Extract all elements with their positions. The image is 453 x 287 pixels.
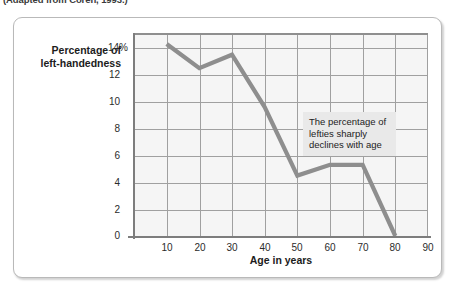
x-tick-50: 50: [282, 242, 312, 253]
x-tick-20: 20: [185, 242, 215, 253]
x-axis-line: [128, 236, 431, 238]
y-tick-4: 4: [80, 177, 120, 188]
y-tick-0: 0: [80, 230, 120, 241]
y-tick-10: 10: [80, 96, 120, 107]
y-tick-6: 6: [80, 150, 120, 161]
x-tick-30: 30: [217, 242, 247, 253]
y-tick-14: 14%: [88, 42, 128, 53]
y-tick-12: 12: [80, 69, 120, 80]
y-axis-title-line2: left-handedness: [18, 57, 121, 70]
x-tick-70: 70: [348, 242, 378, 253]
x-tick-40: 40: [250, 242, 280, 253]
annotation-decline-callout: The percentage of lefties sharply declin…: [303, 112, 396, 156]
y-axis-line: [133, 33, 135, 239]
x-tick-80: 80: [380, 242, 410, 253]
x-tick-10: 10: [152, 242, 182, 253]
source-credit: (Adapted from Coren, 1993.): [3, 0, 128, 5]
x-tick-60: 60: [315, 242, 345, 253]
y-tick-8: 8: [80, 123, 120, 134]
x-axis-title: Age in years: [134, 254, 428, 266]
y-tick-2: 2: [80, 204, 120, 215]
x-tick-90: 90: [413, 242, 443, 253]
